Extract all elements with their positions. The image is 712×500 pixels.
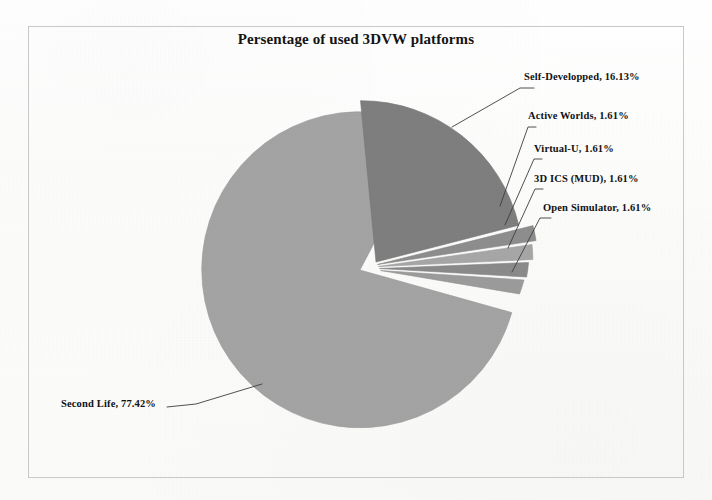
pie-label-second-life: Second Life, 77.42% [61, 398, 156, 409]
chart-page: Persentage of used 3DVW platforms Self-D… [0, 0, 712, 500]
pie-label-3d-ics-mud: 3D ICS (MUD), 1.61% [534, 173, 639, 184]
pie-label-active-worlds: Active Worlds, 1.61% [528, 110, 629, 121]
pie-label-open-simulator: Open Simulator, 1.61% [543, 202, 651, 213]
leader-line-self-developped [452, 88, 534, 127]
pie-label-virtual-u: Virtual-U, 1.61% [534, 143, 614, 154]
leader-line-second-life [167, 384, 262, 407]
pie-label-self-developped: Self-Developped, 16.13% [524, 71, 640, 82]
